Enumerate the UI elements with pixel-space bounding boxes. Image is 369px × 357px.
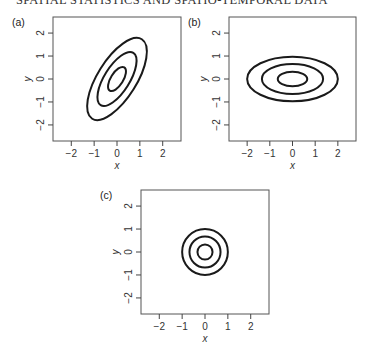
x-tick-label: 0 <box>202 321 208 332</box>
x-tick-label: −1 <box>264 148 276 159</box>
x-tick-label: 2 <box>248 321 254 332</box>
y-tick-label: 1 <box>123 226 134 232</box>
x-axis-label: x <box>114 160 121 171</box>
contour-ellipse <box>90 46 144 112</box>
y-tick-label: 2 <box>211 30 222 36</box>
x-tick-label: −2 <box>154 321 166 332</box>
contour-circle <box>197 244 212 259</box>
figure: −2−1012x−2−1012y(a)−2−1012x−2−1012y(b)−2… <box>0 0 369 357</box>
y-tick-label: −1 <box>211 96 222 108</box>
x-tick-label: 0 <box>114 148 120 159</box>
y-tick-label: 0 <box>35 76 46 82</box>
panel-label: (a) <box>12 16 25 28</box>
y-tick-label: −1 <box>35 96 46 108</box>
y-axis-label: y <box>110 249 121 256</box>
x-tick-label: 1 <box>225 321 231 332</box>
x-tick-label: 2 <box>335 148 341 159</box>
plot-frame <box>141 190 269 314</box>
y-tick-label: 2 <box>35 30 46 36</box>
contour-ellipse <box>76 29 159 129</box>
panel-c: −2−1012x−2−1012y(c) <box>100 189 269 344</box>
x-tick-label: 1 <box>137 148 143 159</box>
x-tick-label: 0 <box>290 148 296 159</box>
contour-ellipse <box>278 72 307 87</box>
y-tick-label: 1 <box>35 53 46 59</box>
y-tick-label: 2 <box>123 203 134 209</box>
panel-a: −2−1012x−2−1012y(a) <box>12 16 181 171</box>
plot-frame <box>53 17 181 141</box>
y-tick-label: −2 <box>35 119 46 131</box>
y-tick-label: −2 <box>211 119 222 131</box>
y-tick-label: 1 <box>211 53 222 59</box>
y-tick-label: −1 <box>123 269 134 281</box>
x-tick-label: −2 <box>66 148 78 159</box>
x-tick-label: −2 <box>241 148 253 159</box>
x-tick-label: 1 <box>312 148 318 159</box>
x-tick-label: 2 <box>160 148 166 159</box>
contour-ellipse <box>262 64 323 94</box>
y-tick-label: −2 <box>123 292 134 304</box>
y-tick-label: 0 <box>123 249 134 255</box>
panel-b: −2−1012x−2−1012y(b) <box>188 16 356 171</box>
y-tick-label: 0 <box>211 76 222 82</box>
contour-circle <box>189 236 220 267</box>
y-axis-label: y <box>22 76 33 83</box>
x-axis-label: x <box>289 160 296 171</box>
panel-label: (b) <box>188 16 201 28</box>
x-axis-label: x <box>202 333 209 344</box>
x-tick-label: −1 <box>176 321 188 332</box>
x-tick-label: −1 <box>88 148 100 159</box>
y-axis-label: y <box>198 76 209 83</box>
panel-label: (c) <box>100 189 112 201</box>
